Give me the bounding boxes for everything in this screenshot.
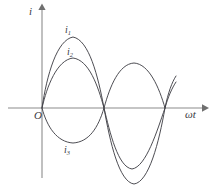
current-axis-arrowhead [38,4,45,11]
waveform-figure: i i1 i2 i3 O ωt [0,0,211,185]
curve-label-i3-subscript: 3 [67,149,70,156]
omega-t-axis-label: ωt [185,109,196,120]
curve-label-i1: i1 [65,25,71,35]
waveform-canvas [0,0,211,185]
curve-label-i3: i3 [64,145,70,155]
origin-label: O [34,110,42,121]
current-axis-label: i [29,6,32,17]
curve-i1 [42,37,176,184]
curve-label-i2: i2 [67,47,73,57]
omega-t-axis-arrowhead [202,104,209,111]
curve-label-i1-subscript: 1 [68,29,71,36]
curve-label-i2-subscript: 2 [70,51,73,58]
curve-i2 [42,58,176,169]
